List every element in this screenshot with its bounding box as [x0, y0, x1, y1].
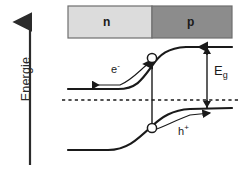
hole-marker-circle	[147, 123, 156, 132]
hole-charge: +	[184, 123, 189, 132]
n-region-label: n	[103, 15, 110, 29]
band-gap-symbol: E	[214, 63, 223, 78]
electron-charge: -	[117, 61, 120, 70]
band-diagram-figure: Energie n p e- h+ Eg	[0, 0, 248, 170]
electron-label: e-	[111, 61, 120, 75]
hole-label: h+	[178, 123, 189, 137]
eg-arrowhead-down	[203, 101, 211, 108]
material-bar	[68, 6, 232, 38]
electron-marker-circle	[147, 53, 156, 62]
band-gap-label: Eg	[214, 63, 228, 78]
diagram-canvas	[0, 0, 248, 170]
band-gap-indicator	[203, 47, 211, 108]
band-gap-subscript: g	[223, 70, 228, 80]
electron-drift-arrow	[92, 62, 150, 85]
energy-axis-label: Energie	[19, 31, 33, 127]
p-region-label: p	[187, 15, 194, 29]
